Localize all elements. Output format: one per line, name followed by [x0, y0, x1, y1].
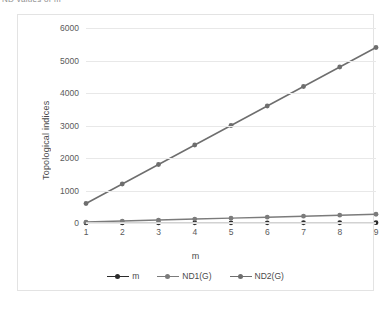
y-gridline: [86, 158, 376, 159]
plot-area-wrapper: 0100020003000400050006000123456789: [86, 28, 376, 223]
data-point-marker: [337, 65, 342, 70]
cropped-caption: ND values of m: [0, 0, 390, 7]
y-axis-title: Topological indices: [39, 65, 53, 215]
x-axis-tick-label: 3: [156, 227, 161, 237]
x-axis-title: m: [18, 251, 373, 261]
x-axis-tick-label: 4: [192, 227, 197, 237]
data-point-marker: [301, 214, 306, 219]
x-axis-tick-label: 5: [229, 227, 234, 237]
x-axis-tick-label: 2: [120, 227, 125, 237]
data-point-marker: [374, 45, 379, 50]
x-axis-tick-label: 1: [84, 227, 89, 237]
y-axis-tick-label: 2000: [60, 153, 79, 163]
cropped-caption-text: ND values of m: [2, 0, 390, 4]
legend-label: ND1(G): [182, 271, 211, 281]
y-axis-tick-label: 6000: [60, 23, 79, 33]
y-gridline: [86, 223, 376, 224]
data-point-marker: [374, 212, 379, 217]
data-point-marker: [337, 213, 342, 218]
y-axis-tick-label: 3000: [60, 121, 79, 131]
y-gridline: [86, 28, 376, 29]
x-axis-tick-label: 6: [265, 227, 270, 237]
data-point-marker: [229, 216, 234, 221]
y-gridline: [86, 93, 376, 94]
legend-marker-icon: [107, 272, 129, 280]
data-point-marker: [301, 84, 306, 89]
y-axis-tick-label: 0: [74, 218, 79, 228]
y-axis-tick-label: 1000: [60, 186, 79, 196]
legend-item-m[interactable]: m: [107, 271, 139, 281]
y-gridline: [86, 61, 376, 62]
legend-item-nd2g[interactable]: ND2(G): [230, 271, 284, 281]
legend-label: m: [132, 271, 139, 281]
plot-area: 0100020003000400050006000123456789: [86, 28, 376, 223]
chart-legend: mND1(G)ND2(G): [18, 271, 373, 281]
chart-container: Topological indices 01000200030004000500…: [17, 14, 374, 291]
x-axis-tick-label: 7: [301, 227, 306, 237]
data-point-marker: [265, 104, 270, 109]
data-point-marker: [84, 201, 89, 206]
x-axis-tick-label: 8: [337, 227, 342, 237]
legend-item-nd1g[interactable]: ND1(G): [157, 271, 211, 281]
data-point-marker: [192, 217, 197, 222]
data-point-marker: [192, 143, 197, 148]
y-gridline: [86, 191, 376, 192]
y-axis-tick-label: 5000: [60, 56, 79, 66]
legend-label: ND2(G): [255, 271, 284, 281]
data-point-marker: [156, 162, 161, 167]
y-axis-tick-label: 4000: [60, 88, 79, 98]
y-gridline: [86, 126, 376, 127]
data-point-marker: [265, 215, 270, 220]
legend-marker-icon: [230, 272, 252, 280]
data-point-marker: [120, 182, 125, 187]
legend-marker-icon: [157, 272, 179, 280]
x-axis-tick-label: 9: [374, 227, 379, 237]
